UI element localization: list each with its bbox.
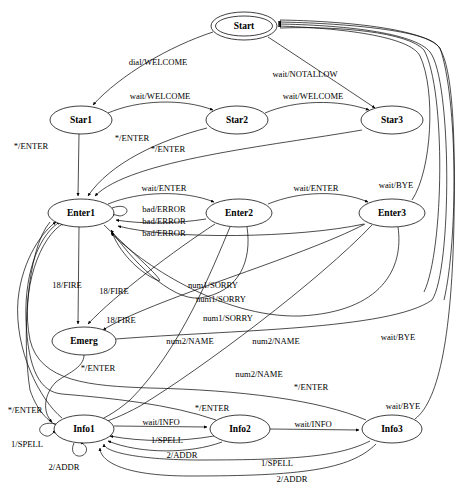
- node-info1-label: Info1: [73, 424, 95, 434]
- node-enter3[interactable]: Enter3: [359, 199, 425, 227]
- state-machine-diagram: Start Star1 Star2 Star3 Enter1: [0, 0, 462, 496]
- edge-label: 1/SPELL: [151, 435, 183, 445]
- edge-enter2-enter3: [268, 194, 368, 204]
- node-enter3-label: Enter3: [378, 208, 406, 218]
- edge-label: 18/FIRE: [99, 286, 129, 296]
- edge-label: wait/INFO: [142, 417, 179, 427]
- edge-label: wait/ENTER: [142, 183, 187, 193]
- edge-rail-right-a: [280, 28, 440, 292]
- edge-label: wait/ENTER: [294, 183, 339, 193]
- edge-label: wait/BYE: [381, 332, 415, 342]
- edge-info1-info1-1-spell: [40, 423, 56, 436]
- fsm-canvas: Start Star1 Star2 Star3 Enter1: [0, 0, 462, 496]
- edge-label: bad/ERROR: [142, 204, 186, 214]
- edge-emerg-info1: [46, 355, 84, 422]
- edge-label: */ENTER: [195, 403, 230, 413]
- edge-label: wait/NOTALLOW: [272, 69, 338, 79]
- edge-info2-info3: [270, 429, 359, 430]
- edge-label: bad/ERROR: [142, 216, 186, 226]
- edge-label: num2/NAME: [166, 336, 213, 346]
- node-star2[interactable]: Star2: [206, 106, 268, 134]
- edge-enter1-enter2: [108, 194, 214, 204]
- edge-enter2-info1: [92, 227, 230, 424]
- node-star2-label: Star2: [226, 115, 248, 125]
- edge-label: num1/SORRY: [196, 294, 246, 304]
- edge-label: */ENTER: [8, 405, 43, 415]
- node-enter1-label: Enter1: [67, 208, 95, 218]
- edge-star2-star3: [265, 102, 369, 113]
- edge-label: 18/FIRE: [52, 280, 82, 290]
- edge-enter1-emerg: [78, 227, 79, 324]
- edge-label: num2/NAME: [252, 336, 299, 346]
- node-enter2-label: Enter2: [225, 208, 253, 218]
- edge-label: 1/SPELL: [261, 458, 293, 468]
- edge-label: 2/ADDR: [276, 474, 307, 484]
- edge-info1-info1-2-addr: [73, 442, 87, 456]
- edge-label: wait/INFO: [294, 419, 331, 429]
- edge-label: 1/SPELL: [11, 439, 43, 449]
- node-star1[interactable]: Star1: [50, 106, 112, 134]
- edge-label: bad/ERROR: [142, 228, 186, 238]
- node-info1[interactable]: Info1: [54, 415, 114, 443]
- edge-label: num1/SORRY: [188, 280, 238, 290]
- edge-label: */ENTER: [81, 363, 116, 373]
- edge-label: 2/ADDR: [166, 450, 197, 460]
- edge-label: wait/BYE: [386, 401, 420, 411]
- node-emerg[interactable]: Emerg: [52, 327, 116, 355]
- node-emerg-label: Emerg: [70, 336, 98, 346]
- edge-star1-star2: [108, 102, 213, 113]
- edge-label: */ENTER: [294, 382, 329, 392]
- edge-label: num2/NAME: [235, 369, 282, 379]
- node-info2-label: Info2: [229, 424, 251, 434]
- edge-label: wait/WELCOME: [130, 91, 191, 101]
- edge-label: */ENTER: [151, 144, 186, 154]
- node-info3[interactable]: Info3: [362, 415, 422, 443]
- edge-label: dial/WELCOME: [129, 57, 188, 67]
- edge-label: 2/ADDR: [48, 462, 79, 472]
- node-start[interactable]: Start: [211, 12, 277, 40]
- node-enter1[interactable]: Enter1: [48, 199, 114, 227]
- node-info3-label: Info3: [381, 424, 403, 434]
- edge-info3-info1-1-spell: [104, 441, 370, 460]
- node-enter2[interactable]: Enter2: [206, 199, 272, 227]
- node-star1-label: Star1: [70, 115, 92, 125]
- edge-info1-enter1: [18, 222, 62, 418]
- edge-enter2-emerg: [88, 224, 215, 324]
- node-start-label: Start: [234, 21, 255, 31]
- node-star3-label: Star3: [381, 115, 403, 125]
- edge-label: 18/FIRE: [106, 315, 136, 325]
- edge-label: wait/WELCOME: [283, 91, 344, 101]
- node-star3[interactable]: Star3: [361, 106, 423, 134]
- edge-enter3-enter1-num1-sorry: [111, 227, 399, 316]
- node-info2[interactable]: Info2: [210, 415, 270, 443]
- edge-label: num1/SORRY: [203, 313, 253, 323]
- edge-label: wait/BYE: [379, 180, 413, 190]
- edge-label: */ENTER: [115, 133, 150, 143]
- edge-label: */ENTER: [14, 141, 49, 151]
- edge-star1-enter1: [78, 134, 79, 196]
